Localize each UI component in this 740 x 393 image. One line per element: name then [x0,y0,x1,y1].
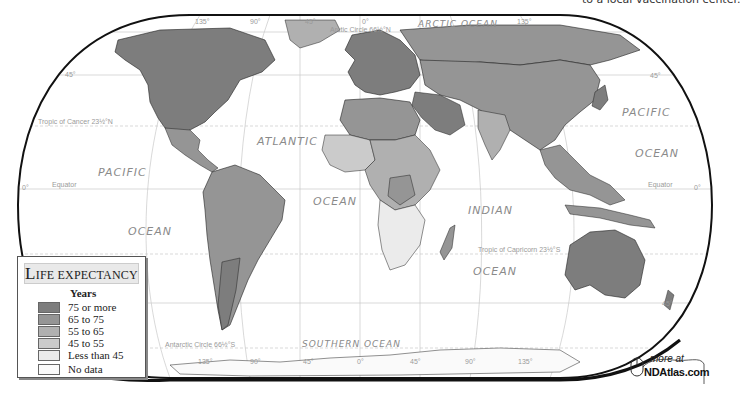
label-lat-45s-right: 45° [662,300,673,307]
legend-item: No data [38,363,103,375]
label-arctic-ocean: ARCTIC OCEAN [417,19,498,29]
legend-title: LIFE EXPECTANCY [24,263,139,284]
label-lon-90w-top: 90° [250,18,261,25]
ndatlas-url[interactable]: NDAtlas.com [644,366,709,378]
label-southern-ocean-1: SOUTHERN [302,339,360,349]
label-lon-45w-top: 45° [305,18,316,25]
region-australia [565,230,645,298]
label-lon-135e-top: 135° [517,18,532,25]
legend-swatch-no-data [38,364,60,375]
legend-item: 65 to 75 [38,313,104,325]
label-lon-135e-bottom: 135° [518,358,533,365]
label-lon-0-bottom: 0° [357,358,364,365]
map-legend: LIFE EXPECTANCY Years 75 or more 65 to 7… [17,256,146,378]
ndatlas-link[interactable]: more at NDAtlas.com [628,350,708,390]
region-north-africa [340,98,420,140]
legend-units: Years [70,287,96,299]
label-atlantic-2: OCEAN [313,195,357,208]
label-lat-45n-left: 45° [65,71,76,78]
label-pacific-left-1: PACIFIC [98,166,147,179]
legend-item: 45 to 55 [38,337,104,349]
label-arctic-circle: Arctic Circle 66½°N [330,26,391,33]
label-tropic-capricorn: Tropic of Capricorn 23½°S [478,246,561,254]
legend-swatch-55-65 [38,326,60,337]
label-antarctic-circle: Antarctic Circle 66½°S [165,341,235,348]
label-pacific-left-2: OCEAN [128,225,172,238]
label-lon-135w-bottom: 135° [198,358,213,365]
label-lon-90e-bottom: 90° [465,358,476,365]
label-atlantic-1: ATLANTIC [256,135,318,148]
legend-swatch-75-plus [38,302,60,313]
legend-swatch-lt-45 [38,350,60,361]
label-southern-ocean-2: OCEAN [364,339,401,349]
label-lon-45e-bottom: 45° [410,358,421,365]
label-lat-0-left: 0° [22,184,29,191]
legend-item: 75 or more [38,301,116,313]
more-at-label: more at [650,353,684,364]
legend-swatch-65-75 [38,314,60,325]
label-equator-left: Equator [52,181,77,189]
label-indian-1: INDIAN [468,204,513,217]
label-lon-0-top: 0° [362,18,369,25]
label-tropic-cancer: Tropic of Cancer 23½°N [38,118,113,126]
label-lon-135w-top: 135° [195,18,210,25]
legend-item: Less than 45 [38,349,124,361]
label-lon-90w-bottom: 90° [250,358,261,365]
legend-item: 55 to 65 [38,325,104,337]
label-pacific-right-2: OCEAN [635,147,679,160]
label-lat-45n-right: 45° [650,72,661,79]
label-lat-0-right: 0° [694,184,701,191]
label-indian-2: OCEAN [473,265,517,278]
label-equator-right: Equator [648,181,673,189]
label-pacific-right-1: PACIFIC [622,106,671,119]
label-lon-45w-bottom: 45° [303,358,314,365]
legend-swatch-45-55 [38,338,60,349]
